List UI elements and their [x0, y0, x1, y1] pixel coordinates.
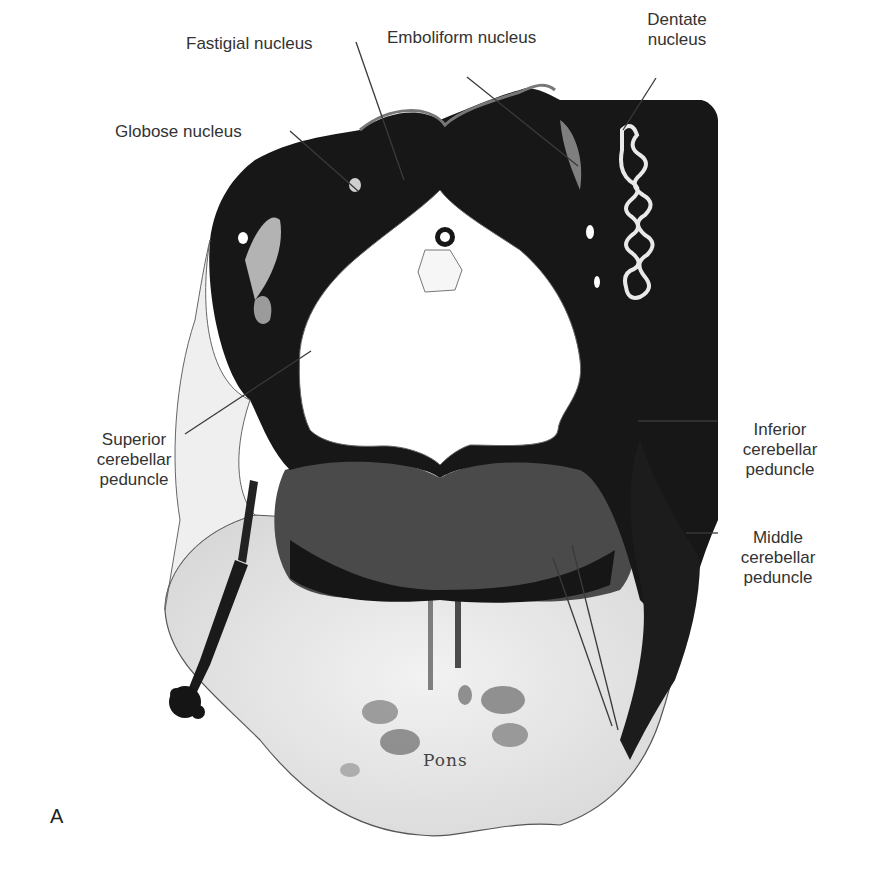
panel-letter: A: [50, 805, 63, 828]
label-dentate-nucleus: Dentate nucleus: [640, 10, 714, 50]
label-globose-nucleus: Globose nucleus: [115, 122, 242, 142]
label-middle-line1: Middle: [726, 528, 830, 548]
tegmentum-band: [274, 460, 636, 603]
label-middle-line2: cerebellar: [726, 548, 830, 568]
anatomy-figure: Fastigial nucleus Emboliform nucleus Den…: [0, 0, 872, 878]
label-fastigial-nucleus: Fastigial nucleus: [186, 34, 313, 54]
label-emboliform-nucleus: Emboliform nucleus: [387, 28, 536, 48]
label-middle-line3: peduncle: [726, 568, 830, 588]
label-superior-line3: peduncle: [84, 470, 184, 490]
label-dentate-line1: Dentate: [640, 10, 714, 30]
label-superior-line1: Superior: [84, 430, 184, 450]
label-dentate-line2: nucleus: [640, 30, 714, 50]
label-inferior-cerebellar-peduncle: Inferior cerebellar peduncle: [730, 420, 830, 480]
label-inferior-line3: peduncle: [730, 460, 830, 480]
label-pons: Pons: [423, 750, 468, 770]
label-inferior-line2: cerebellar: [730, 440, 830, 460]
label-middle-cerebellar-peduncle: Middle cerebellar peduncle: [726, 528, 830, 588]
label-superior-line2: cerebellar: [84, 450, 184, 470]
label-inferior-line1: Inferior: [730, 420, 830, 440]
label-superior-cerebellar-peduncle: Superior cerebellar peduncle: [84, 430, 184, 490]
